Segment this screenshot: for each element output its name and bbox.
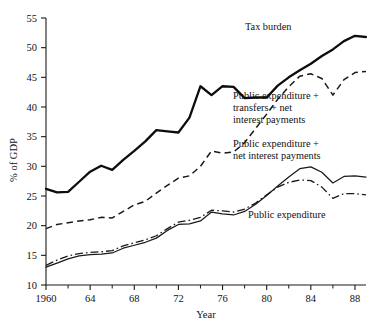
y-axis-tick-label: 45 [27,72,38,83]
line-chart: % of GDP 10152025303540455055 1960646872… [0,0,375,331]
series-line-tax-burden [46,36,366,193]
y-axis-tick-label: 20 [27,220,38,231]
x-axis-ticks: 196064687276808488 [36,285,361,304]
series-annotations: Tax burdenPublic expenditure +transfers … [233,21,326,220]
annotation-pub-exp: Public expenditure [248,209,326,220]
y-axis-tick-label: 55 [27,13,38,24]
chart-container: % of GDP 10152025303540455055 1960646872… [0,0,375,331]
x-axis-tick-label: 64 [85,293,96,304]
annotation-pub-exp-transfers-interest: Public expenditure +transfers + netinter… [233,90,319,125]
y-axis-tick-label: 35 [27,131,38,142]
x-axis-tick-label: 72 [173,293,184,304]
y-axis-tick-label: 50 [27,42,38,53]
x-axis-tick-label: 68 [129,293,140,304]
y-axis-label: % of GDP [8,138,19,182]
y-axis-tick-label: 40 [27,102,38,113]
y-axis-tick-label: 30 [27,161,38,172]
x-axis-tick-label: 84 [306,293,317,304]
x-axis-tick-label: 1960 [36,293,57,304]
annotation-tax-burden: Tax burden [245,21,291,32]
x-axis-label: Year [196,309,216,320]
series-line-public-expenditure [46,180,366,265]
y-axis-ticks: 10152025303540455055 [27,13,47,291]
y-axis-tick-label: 25 [27,191,38,202]
annotation-pub-exp-interest: Public expenditure +net interest payment… [233,138,321,161]
y-axis-tick-label: 10 [27,280,38,291]
x-axis-tick-label: 80 [261,293,272,304]
x-axis-tick-label: 88 [350,293,361,304]
y-axis-tick-label: 15 [27,250,38,261]
x-axis-tick-label: 76 [217,293,228,304]
